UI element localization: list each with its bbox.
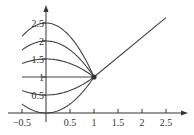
y-tick-label: 1 <box>39 72 44 83</box>
x-tick-label: 1.5 <box>112 117 125 128</box>
x-tick-label: −0.5 <box>13 117 31 128</box>
y-tick-label: 1.5 <box>32 54 45 65</box>
series-ray <box>94 18 166 77</box>
y-tick-label: 2.5 <box>32 18 45 29</box>
y-axis-arrow-icon <box>44 5 49 12</box>
x-axis-arrow-icon <box>181 111 188 116</box>
y-tick-label: 2 <box>39 36 44 47</box>
intersection-point <box>91 74 96 79</box>
x-tick-label: 1 <box>92 117 97 128</box>
series-parabola-c-2-5 <box>22 23 94 77</box>
x-tick-label: 2 <box>140 117 145 128</box>
chart: −0.50.511.522.50.511.522.5 <box>0 0 194 135</box>
intersection-point-marker <box>91 74 96 79</box>
y-tick-label: 0.5 <box>32 90 45 101</box>
x-tick-label: 0.5 <box>64 117 77 128</box>
x-tick-label: 2.5 <box>160 117 173 128</box>
